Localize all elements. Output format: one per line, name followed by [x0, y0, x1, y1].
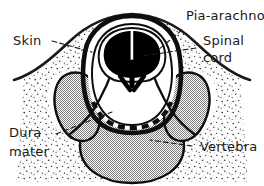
label-pia-arachnoid: Pia-arachnoid: [186, 8, 264, 23]
label-spinal-cord-line2: cord: [203, 50, 232, 65]
label-dura-mater-line2: mater: [9, 144, 50, 159]
label-dura-mater-line1: Dura: [9, 125, 41, 140]
spinal-column-cross-section-figure: Skin Pia-arachnoid Spinal cord Dura mate…: [0, 0, 264, 186]
label-vertebra: Vertebra: [200, 139, 258, 154]
label-skin: Skin: [13, 33, 41, 48]
label-spinal-cord-line1: Spinal: [203, 33, 244, 48]
